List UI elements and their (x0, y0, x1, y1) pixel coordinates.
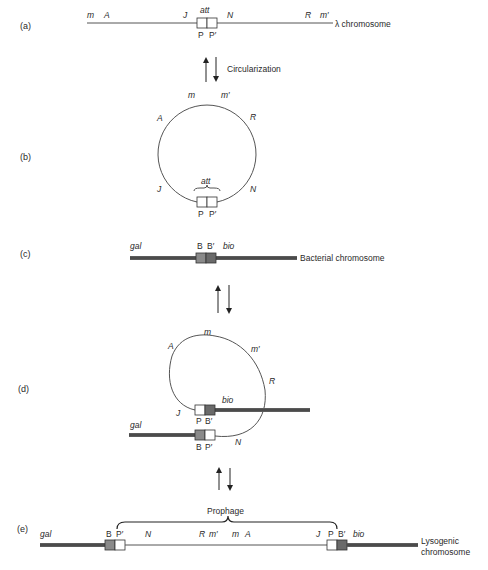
att-P-prime-box (207, 18, 217, 28)
circular-lambda-dna (158, 105, 256, 202)
att-B-box (195, 430, 205, 440)
P-label: P (198, 30, 204, 40)
gene-R: R (305, 10, 311, 20)
att-B-prime-box (206, 253, 216, 263)
equilibrium-arrows-cd (218, 285, 229, 313)
gene-J: J (156, 184, 162, 194)
bio-label: bio (222, 395, 234, 405)
bio-label: bio (223, 241, 235, 251)
gal-label: gal (40, 529, 52, 539)
gene-m-prime: m′ (221, 90, 230, 100)
P-label: P (328, 529, 334, 539)
B-prime-label: B′ (338, 529, 346, 539)
gene-A: A (244, 529, 251, 539)
gene-N: N (250, 184, 257, 194)
bacterial-chromosome-label: Bacterial chromosome (300, 253, 385, 263)
att-P-box (197, 18, 207, 28)
prophage-label: Prophage (207, 506, 244, 516)
gal-label: gal (130, 420, 142, 430)
P-prime-label: P′ (116, 529, 124, 539)
gene-J: J (315, 529, 321, 539)
gene-J: J (182, 10, 188, 20)
gene-R: R (269, 376, 275, 386)
panel-b-label: (b) (20, 152, 31, 162)
gene-J: J (175, 408, 181, 418)
lysogenic-label-line1: Lysogenic (421, 536, 460, 546)
gene-m: m (87, 10, 94, 20)
gene-m-prime: m′ (209, 529, 218, 539)
att-P-box (197, 197, 207, 207)
att-B-prime-box (337, 540, 347, 550)
prophage-brace (117, 516, 337, 529)
P-label: P (198, 209, 204, 219)
bio-label: bio (353, 529, 365, 539)
panel-d: (d) m A m′ R bio J P B′ gal N B P′ (18, 327, 310, 452)
B-prime-label: B′ (207, 241, 215, 251)
gene-m: m (188, 90, 195, 100)
equilibrium-arrows-ab: Circularization (206, 57, 281, 82)
att-label: att (201, 176, 211, 186)
att-P-prime-box (205, 430, 215, 440)
panel-e-label: (e) (17, 524, 28, 534)
B-label: B (106, 529, 112, 539)
panel-a: (a) m A J att N R m′ P P′ λ chromosome (20, 5, 391, 40)
att-P-prime-box (115, 540, 125, 550)
P-prime-label: P′ (209, 209, 217, 219)
panel-c-label: (c) (20, 249, 31, 259)
P-prime-label: P′ (205, 442, 213, 452)
att-P-box (195, 405, 205, 415)
lambda-chromosome-label: λ chromosome (335, 19, 391, 29)
gal-label: gal (130, 241, 142, 251)
gene-m: m (232, 529, 239, 539)
att-B-box (196, 253, 206, 263)
att-P-box (327, 540, 337, 550)
circularization-label: Circularization (227, 64, 281, 74)
gene-m-prime: m′ (251, 344, 260, 354)
gene-m: m (204, 327, 211, 337)
panel-b: (b) att P P′ m m′ A R J N (20, 90, 257, 219)
gene-N: N (235, 437, 242, 447)
att-P-prime-box (207, 197, 217, 207)
gene-m-prime: m′ (320, 10, 329, 20)
gene-R: R (250, 112, 256, 122)
panel-c: (c) gal B B′ bio Bacterial chromosome (20, 241, 385, 263)
att-B-prime-box (205, 405, 215, 415)
equilibrium-arrows-de (219, 468, 230, 490)
panel-d-label: (d) (18, 384, 29, 394)
gene-N: N (145, 529, 152, 539)
lysogenic-label-line2: chromosome (421, 547, 470, 557)
gene-R: R (199, 529, 205, 539)
P-label: P (196, 416, 202, 426)
B-label: B (196, 442, 202, 452)
P-prime-label: P′ (209, 30, 217, 40)
att-B-box (105, 540, 115, 550)
gene-A: A (156, 113, 163, 123)
B-prime-label: B′ (205, 416, 213, 426)
panel-a-label: (a) (20, 21, 31, 31)
lambda-integration-diagram: (a) m A J att N R m′ P P′ λ chromosome C… (0, 0, 488, 570)
panel-e: (e) Prophage gal B P′ N R m′ m A J P B′ … (17, 506, 470, 557)
att-label: att (200, 5, 210, 15)
gene-A: A (103, 10, 110, 20)
B-label: B (197, 241, 203, 251)
gene-A: A (167, 341, 174, 351)
gene-N: N (227, 10, 234, 20)
